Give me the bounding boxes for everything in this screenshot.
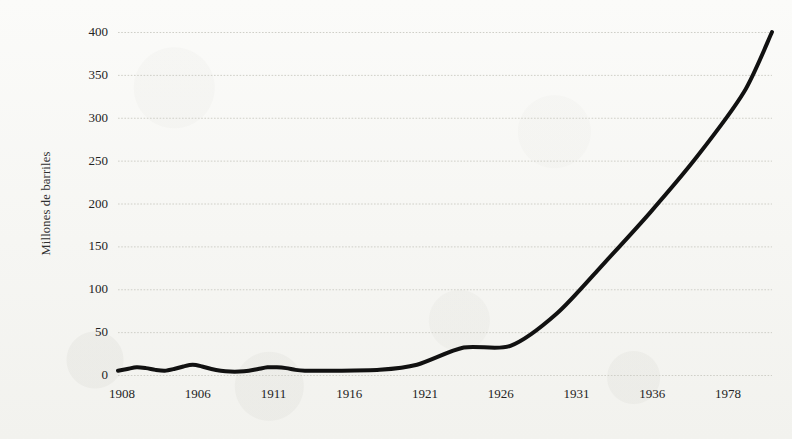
chart-svg <box>0 0 792 439</box>
line-chart-figure: Millones de barriles 4003503002502001501… <box>0 0 792 439</box>
gridline-group <box>118 33 772 376</box>
plot-area <box>0 0 792 439</box>
series-line-millones-de-barriles <box>118 32 772 372</box>
data-series-group <box>118 32 772 372</box>
